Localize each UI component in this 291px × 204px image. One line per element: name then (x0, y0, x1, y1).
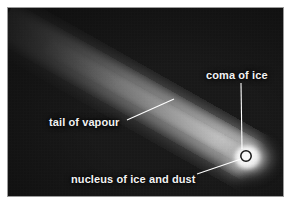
label-coma-of-ice: coma of ice (206, 70, 268, 81)
label-tail-of-vapour: tail of vapour (49, 117, 119, 128)
comet-diagram: coma of ice tail of vapour nucleus of ic… (0, 0, 291, 204)
nucleus-core (241, 151, 251, 161)
comet-artwork (8, 8, 283, 196)
label-nucleus-of-ice-and-dust: nucleus of ice and dust (71, 174, 196, 185)
photo-panel: coma of ice tail of vapour nucleus of ic… (7, 7, 284, 197)
